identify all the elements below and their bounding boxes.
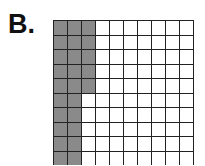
unshaded-square bbox=[152, 123, 166, 138]
unshaded-square bbox=[166, 36, 180, 51]
shaded-square bbox=[68, 36, 82, 51]
unshaded-square bbox=[124, 50, 138, 65]
shaded-square bbox=[82, 36, 96, 51]
unshaded-square bbox=[180, 79, 194, 94]
unshaded-square bbox=[166, 50, 180, 65]
unshaded-square bbox=[110, 123, 124, 138]
unshaded-square bbox=[96, 36, 110, 51]
unshaded-square bbox=[180, 50, 194, 65]
hundred-grid bbox=[53, 20, 194, 165]
unshaded-square bbox=[152, 36, 166, 51]
unshaded-square bbox=[166, 123, 180, 138]
unshaded-square bbox=[180, 123, 194, 138]
shaded-square bbox=[54, 65, 68, 80]
unshaded-square bbox=[152, 65, 166, 80]
shaded-square bbox=[68, 21, 82, 36]
unshaded-square bbox=[124, 108, 138, 123]
shaded-square bbox=[82, 21, 96, 36]
shaded-square bbox=[68, 108, 82, 123]
unshaded-square bbox=[138, 152, 152, 166]
shaded-square bbox=[54, 94, 68, 109]
shaded-square bbox=[82, 50, 96, 65]
unshaded-square bbox=[96, 108, 110, 123]
unshaded-square bbox=[124, 79, 138, 94]
shaded-square bbox=[54, 21, 68, 36]
unshaded-square bbox=[110, 152, 124, 166]
shaded-square bbox=[54, 79, 68, 94]
shaded-square bbox=[82, 65, 96, 80]
unshaded-square bbox=[124, 152, 138, 166]
unshaded-square bbox=[138, 94, 152, 109]
unshaded-square bbox=[82, 137, 96, 152]
unshaded-square bbox=[180, 108, 194, 123]
unshaded-square bbox=[138, 79, 152, 94]
unshaded-square bbox=[110, 79, 124, 94]
unshaded-square bbox=[166, 21, 180, 36]
shaded-square bbox=[54, 123, 68, 138]
shaded-square bbox=[68, 65, 82, 80]
unshaded-square bbox=[124, 94, 138, 109]
unshaded-square bbox=[180, 94, 194, 109]
unshaded-square bbox=[82, 152, 96, 166]
unshaded-square bbox=[82, 108, 96, 123]
unshaded-square bbox=[96, 79, 110, 94]
shaded-square bbox=[68, 94, 82, 109]
unshaded-square bbox=[138, 21, 152, 36]
unshaded-square bbox=[166, 65, 180, 80]
unshaded-square bbox=[138, 137, 152, 152]
unshaded-square bbox=[152, 108, 166, 123]
unshaded-square bbox=[180, 137, 194, 152]
shaded-square bbox=[68, 50, 82, 65]
shaded-square bbox=[68, 79, 82, 94]
shaded-square bbox=[54, 36, 68, 51]
unshaded-square bbox=[110, 50, 124, 65]
unshaded-square bbox=[166, 137, 180, 152]
unshaded-square bbox=[96, 94, 110, 109]
unshaded-square bbox=[166, 108, 180, 123]
shaded-square bbox=[68, 123, 82, 138]
shaded-square bbox=[82, 79, 96, 94]
unshaded-square bbox=[96, 21, 110, 36]
unshaded-square bbox=[96, 152, 110, 166]
unshaded-square bbox=[110, 94, 124, 109]
unshaded-square bbox=[82, 94, 96, 109]
unshaded-square bbox=[166, 79, 180, 94]
shaded-square bbox=[68, 137, 82, 152]
unshaded-square bbox=[138, 123, 152, 138]
unshaded-square bbox=[138, 65, 152, 80]
shaded-square bbox=[54, 137, 68, 152]
unshaded-square bbox=[124, 123, 138, 138]
unshaded-square bbox=[124, 65, 138, 80]
unshaded-square bbox=[138, 108, 152, 123]
unshaded-square bbox=[110, 21, 124, 36]
shaded-square bbox=[54, 108, 68, 123]
unshaded-square bbox=[96, 50, 110, 65]
unshaded-square bbox=[96, 65, 110, 80]
unshaded-square bbox=[166, 152, 180, 166]
unshaded-square bbox=[110, 36, 124, 51]
unshaded-square bbox=[180, 152, 194, 166]
unshaded-square bbox=[110, 108, 124, 123]
unshaded-square bbox=[152, 79, 166, 94]
unshaded-square bbox=[124, 137, 138, 152]
unshaded-square bbox=[152, 94, 166, 109]
unshaded-square bbox=[180, 65, 194, 80]
unshaded-square bbox=[152, 21, 166, 36]
unshaded-square bbox=[138, 36, 152, 51]
unshaded-square bbox=[124, 36, 138, 51]
unshaded-square bbox=[152, 137, 166, 152]
unshaded-square bbox=[152, 152, 166, 166]
unshaded-square bbox=[96, 123, 110, 138]
option-label: B. bbox=[8, 11, 35, 38]
unshaded-square bbox=[180, 21, 194, 36]
unshaded-square bbox=[96, 137, 110, 152]
shaded-square bbox=[54, 50, 68, 65]
shaded-square bbox=[68, 152, 82, 166]
unshaded-square bbox=[110, 137, 124, 152]
shaded-square bbox=[54, 152, 68, 166]
unshaded-square bbox=[152, 50, 166, 65]
unshaded-square bbox=[82, 123, 96, 138]
unshaded-square bbox=[166, 94, 180, 109]
unshaded-square bbox=[180, 36, 194, 51]
unshaded-square bbox=[110, 65, 124, 80]
